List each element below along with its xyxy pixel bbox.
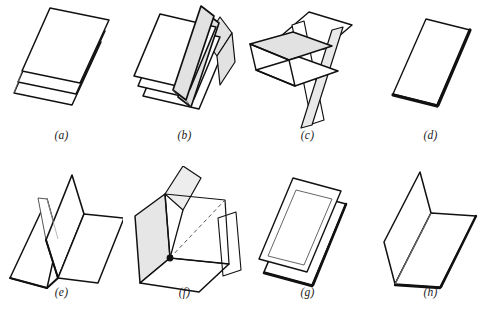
figure-f: (f)	[123, 166, 246, 327]
figure-e-drawing	[0, 166, 123, 306]
figure-e: (e)	[0, 166, 123, 327]
figure-h: (h)	[369, 166, 492, 327]
figure-a-caption: (a)	[0, 129, 123, 141]
figure-h-drawing	[369, 166, 492, 306]
figure-g-caption: (g)	[246, 286, 369, 298]
figure-d-caption: (d)	[369, 129, 492, 141]
figure-a: (a)	[0, 0, 123, 163]
intersection-dot-icon	[167, 255, 174, 262]
figure-b: (b)	[123, 0, 246, 163]
figure-g-drawing	[246, 166, 369, 306]
figure-b-drawing	[123, 0, 246, 140]
figure-f-caption: (f)	[123, 286, 246, 298]
figure-d-drawing	[369, 0, 492, 140]
figure-c-caption: (c)	[246, 129, 369, 141]
figure-f-drawing	[123, 166, 246, 306]
figure-a-drawing	[0, 0, 123, 140]
figure-plate: (a) (b)	[0, 0, 492, 327]
figure-c-drawing	[246, 0, 369, 140]
figure-h-caption: (h)	[369, 286, 492, 298]
figure-g: (g)	[246, 166, 369, 327]
sheet-top	[22, 8, 109, 83]
figure-e-caption: (e)	[0, 286, 123, 298]
figure-c: (c)	[246, 0, 369, 163]
figure-b-caption: (b)	[123, 129, 246, 141]
figure-d: (d)	[369, 0, 492, 163]
sheet-single	[393, 19, 470, 105]
